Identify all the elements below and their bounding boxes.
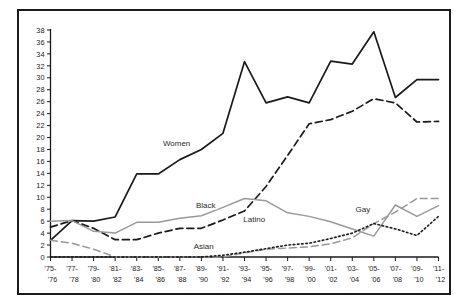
y-tick-label: 34 xyxy=(36,50,44,59)
x-tick-label-bottom: '02 xyxy=(328,275,337,284)
y-tick-label: 28 xyxy=(36,85,44,94)
y-tick-label: 6 xyxy=(40,217,44,226)
x-tick-label-top: '11- xyxy=(433,264,445,273)
y-tick-label: 12 xyxy=(36,181,44,190)
y-tick-label: 32 xyxy=(36,62,44,71)
x-tick-label-bottom: '76 xyxy=(48,275,57,284)
series-label-women: Women xyxy=(163,139,190,148)
x-tick-label-top: '77- xyxy=(66,264,78,273)
y-tick-label: 8 xyxy=(40,205,44,214)
y-tick-label: 20 xyxy=(36,133,44,142)
x-tick-label-bottom: '86 xyxy=(156,275,165,284)
y-tick-label: 36 xyxy=(36,38,44,47)
y-tick-label: 10 xyxy=(36,193,44,202)
y-tick-label: 24 xyxy=(36,109,44,118)
series-label-black: Black xyxy=(196,201,217,210)
x-tick-label-top: '05- xyxy=(368,264,380,273)
x-tick-label-bottom: '96 xyxy=(263,275,272,284)
x-tick-label-top: '03- xyxy=(346,264,358,273)
series-line-women xyxy=(51,32,439,240)
x-tick-label-bottom: '82 xyxy=(112,275,121,284)
x-tick-label-bottom: '92 xyxy=(220,275,229,284)
x-tick-label-top: '91- xyxy=(217,264,229,273)
x-tick-label-bottom: '84 xyxy=(134,275,143,284)
line-chart: 02468101214161820222426283032343638'75-'… xyxy=(0,0,469,308)
y-tick-label: 4 xyxy=(40,229,44,238)
x-tick-label-bottom: '10 xyxy=(414,275,423,284)
y-tick-label: 14 xyxy=(36,169,44,178)
series-label-latino: Latino xyxy=(243,215,265,224)
x-tick-label-top: '95- xyxy=(260,264,272,273)
y-tick-label: 22 xyxy=(36,121,44,130)
x-tick-label-bottom: '78 xyxy=(69,275,78,284)
y-tick-label: 2 xyxy=(40,241,44,250)
x-tick-label-top: '85- xyxy=(152,264,164,273)
x-tick-label-bottom: '00 xyxy=(306,275,315,284)
x-tick-label-bottom: '12 xyxy=(436,275,445,284)
x-tick-label-top: '81- xyxy=(109,264,121,273)
x-tick-label-top: '09- xyxy=(411,264,423,273)
chart-figure: 02468101214161820222426283032343638'75-'… xyxy=(0,0,469,308)
x-tick-label-top: '93- xyxy=(239,264,251,273)
series-label-asian: Asian xyxy=(194,242,214,251)
x-tick-label-top: '79- xyxy=(88,264,100,273)
x-tick-label-top: '01- xyxy=(325,264,337,273)
x-tick-label-bottom: '06 xyxy=(371,275,380,284)
x-tick-label-top: '87- xyxy=(174,264,186,273)
x-tick-label-top: '07- xyxy=(390,264,402,273)
x-tick-label-top: '97- xyxy=(282,264,294,273)
x-tick-label-top: '99- xyxy=(303,264,315,273)
x-tick-label-bottom: '90 xyxy=(199,275,208,284)
y-tick-label: 38 xyxy=(36,26,44,35)
y-tick-label: 26 xyxy=(36,97,44,106)
x-tick-label-bottom: '88 xyxy=(177,275,186,284)
x-tick-label-bottom: '80 xyxy=(91,275,100,284)
y-tick-label: 16 xyxy=(36,157,44,166)
y-tick-label: 18 xyxy=(36,145,44,154)
x-tick-label-bottom: '08 xyxy=(393,275,402,284)
y-tick-label: 0 xyxy=(40,253,44,262)
series-label-gay: Gay xyxy=(356,205,371,214)
x-tick-label-bottom: '04 xyxy=(350,275,359,284)
x-tick-label-bottom: '98 xyxy=(285,275,294,284)
x-tick-label-top: '75- xyxy=(45,264,57,273)
x-tick-label-bottom: '94 xyxy=(242,275,251,284)
x-tick-label-top: '83- xyxy=(131,264,143,273)
x-tick-label-top: '89- xyxy=(196,264,208,273)
y-tick-label: 30 xyxy=(36,73,44,82)
